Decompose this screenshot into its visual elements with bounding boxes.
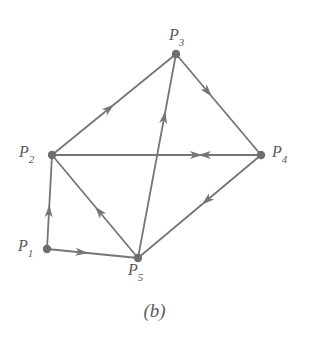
node-label-subscript: 3: [179, 36, 185, 48]
node-label-p2: P2: [19, 144, 34, 163]
node-label-p3: P3: [169, 27, 184, 46]
edge-p1-p5: [47, 249, 138, 258]
node-label-base: P: [18, 237, 28, 254]
node-label-subscript: 2: [29, 153, 35, 165]
nodes-layer: [43, 50, 265, 262]
edge-p3-p5: [138, 54, 176, 258]
node-p2: [48, 151, 56, 159]
node-label-base: P: [272, 143, 282, 160]
edge-p4-p5: [138, 155, 261, 258]
figure-container: P1P2P3P4P5 (b): [0, 0, 309, 354]
node-label-p5: P5: [128, 262, 143, 281]
node-label-p4: P4: [272, 144, 287, 163]
node-label-subscript: 5: [138, 271, 144, 283]
node-label-subscript: 1: [28, 247, 34, 259]
node-label-p1: P1: [18, 238, 33, 257]
node-p4: [257, 151, 265, 159]
node-label-base: P: [169, 26, 179, 43]
node-label-base: P: [19, 143, 29, 160]
edge-p1-p2: [47, 155, 52, 249]
node-p1: [43, 245, 51, 253]
figure-caption: (b): [0, 300, 309, 322]
edges-layer: [47, 54, 261, 258]
node-label-base: P: [128, 261, 138, 278]
arrowheads-layer: [45, 84, 214, 256]
node-label-subscript: 4: [282, 153, 288, 165]
node-p3: [172, 50, 180, 58]
edge-p3-p4: [176, 54, 261, 155]
